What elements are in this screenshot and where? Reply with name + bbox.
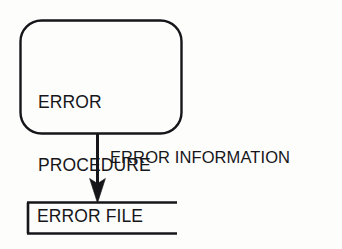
flowchart-diagram: ERROR PROCEDURE ERROR INFORMATION ERROR … bbox=[0, 0, 342, 249]
process-node-label-line-1: ERROR bbox=[38, 92, 151, 113]
file-node-label: ERROR FILE bbox=[37, 208, 143, 226]
flow-edge-label: ERROR INFORMATION bbox=[110, 149, 290, 166]
process-node-label: ERROR PROCEDURE bbox=[38, 50, 151, 218]
